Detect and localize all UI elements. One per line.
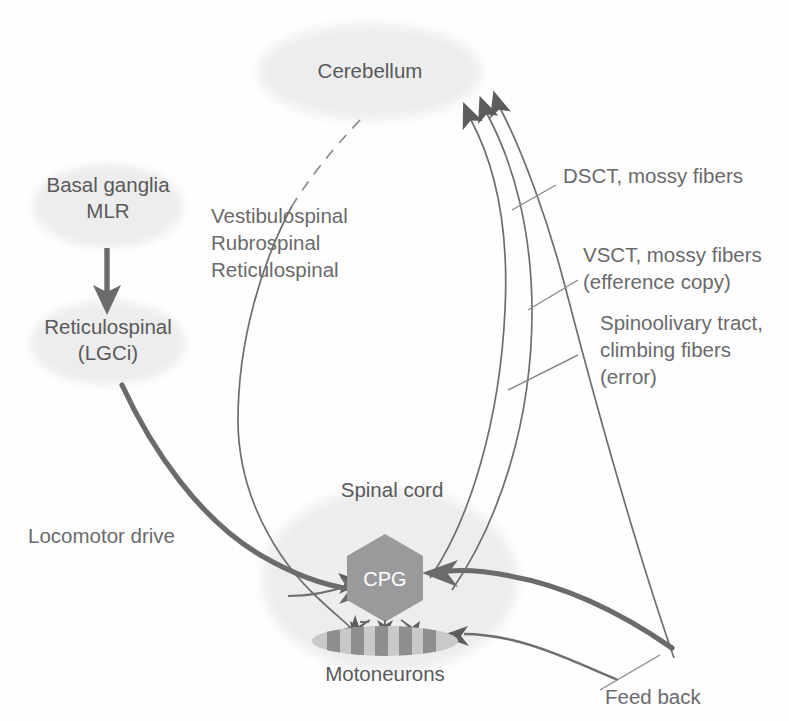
figure-canvas: Cerebellum Basal ganglia MLR Reticulospi… — [0, 0, 789, 721]
cerebellum-label: Cerebellum — [318, 59, 423, 82]
descending-tracts-line1: Vestibulospinal — [211, 204, 348, 227]
spinoolivary-label-line2: climbing fibers — [600, 338, 731, 361]
vsct-label-line2: (efference copy) — [583, 270, 731, 293]
dsct-label-line1: DSCT, mossy fibers — [563, 164, 743, 187]
motoneurons-label: Motoneurons — [325, 662, 445, 685]
basal-ganglia-label-line2: MLR — [86, 199, 129, 222]
feedback-label: Feed back — [605, 685, 701, 708]
spinal-cord-label: Spinal cord — [341, 478, 444, 501]
locomotor-drive-label: Locomotor drive — [28, 524, 175, 547]
cpg-label: CPG — [363, 568, 406, 590]
descending-tracts-line3: Reticulospinal — [211, 258, 339, 281]
vsct-label-line1: VSCT, mossy fibers — [583, 243, 762, 266]
basal-ganglia-label-line1: Basal ganglia — [46, 173, 170, 196]
reticulospinal-label-line2: (LGCi) — [78, 341, 138, 364]
spinoolivary-label-line1: Spinoolivary tract, — [600, 311, 763, 334]
dsct-arrowhead — [453, 98, 483, 130]
reticulospinal-label-line1: Reticulospinal — [44, 315, 172, 338]
spinoolivary-label-line3: (error) — [600, 365, 657, 388]
descending-tracts-line2: Rubrospinal — [211, 231, 320, 254]
diagram-svg: Cerebellum Basal ganglia MLR Reticulospi… — [0, 0, 789, 721]
spinoolivary-leader-line — [508, 355, 578, 390]
